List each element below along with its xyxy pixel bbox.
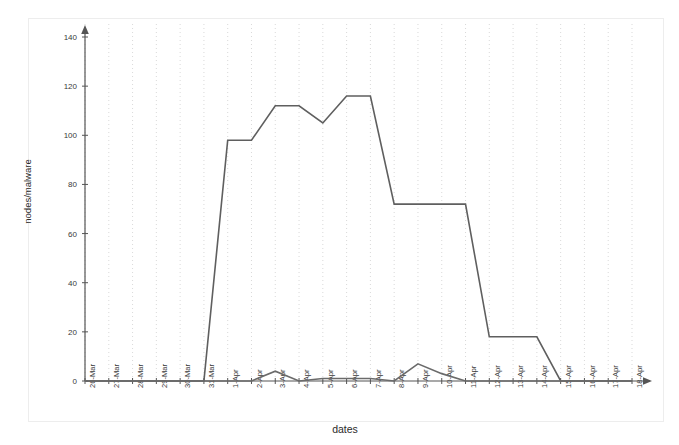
data-series-layer [85, 96, 632, 381]
series-line-nodes [85, 96, 632, 381]
chart-figure: nodes/malware dates 02040608010012014026… [0, 0, 679, 445]
series-line-malware [85, 364, 632, 381]
gridlines [85, 24, 632, 381]
line-chart-plot [0, 0, 679, 445]
x-axis-arrow-icon [643, 377, 652, 385]
y-axis-arrow-icon [81, 25, 89, 34]
